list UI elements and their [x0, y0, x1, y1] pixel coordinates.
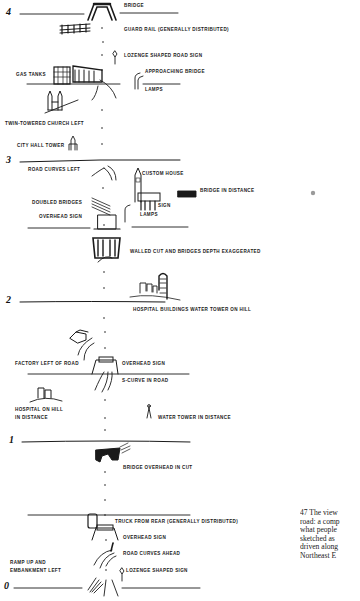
label-overhead-sign-3: OVERHEAD SIGN: [39, 214, 82, 220]
label-lamps-top: LAMPS: [145, 87, 163, 93]
label-gas-tanks: GAS TANKS: [16, 72, 46, 78]
label-doubled-bridges: DOUBLED BRIDGES: [32, 200, 82, 206]
mile-marker-3: 3: [6, 154, 11, 165]
label-road-curves-left: ROAD CURVES LEFT: [28, 167, 80, 173]
caption-line: Northeast E: [300, 552, 360, 561]
label-bridge-overhead-cut: BRIDGE OVERHEAD IN CUT: [123, 465, 192, 471]
label-walled-cut: WALLED CUT AND BRIDGES DEPTH EXAGGERATED: [130, 249, 261, 255]
label-road-curves-ahead: ROAD CURVES AHEAD: [123, 551, 180, 557]
guard-rail-icon: [60, 24, 90, 34]
label-bridge: BRIDGE: [124, 3, 144, 9]
label-s-curve: S-CURVE IN ROAD: [122, 378, 169, 384]
label-approaching-bridge: APPROACHING BRIDGE: [145, 69, 205, 75]
label-hospital-buildings: HOSPITAL BUILDINGS WATER TOWER ON HILL: [133, 307, 251, 313]
mile-marker-1: 1: [9, 434, 14, 445]
label-factory-left: FACTORY LEFT OF ROAD: [15, 361, 79, 367]
label-city-hall-tower: CITY HALL TOWER: [17, 143, 64, 149]
book-page: 4 3 2 1 0 BRIDGE GUARD RAIL (GENERALLY D…: [0, 0, 360, 601]
label-embankment-left: EMBANKMENT LEFT: [10, 568, 61, 574]
label-hospital-in-distance: IN DISTANCE: [15, 415, 48, 421]
label-custom-house: CUSTOM HOUSE: [142, 171, 184, 177]
label-hospital-on-hill: HOSPITAL ON HILL: [15, 407, 63, 413]
label-overhead-sign-2: OVERHEAD SIGN: [122, 361, 165, 367]
label-sign: SIGN: [158, 203, 171, 209]
label-guard-rail: GUARD RAIL (GENERALLY DISTRIBUTED): [124, 27, 229, 33]
figure-caption: 47 The view road: a comp what people ske…: [300, 509, 360, 561]
label-ramp-up: RAMP UP AND: [10, 560, 46, 566]
label-truck-from-rear: TRUCK FROM REAR (GENERALLY DISTRIBUTED): [115, 519, 238, 525]
label-lamps-3: LAMPS: [140, 212, 158, 218]
mile-marker-0: 0: [4, 580, 9, 591]
mile-marker-2: 2: [6, 294, 11, 305]
mile-marker-4: 4: [6, 6, 11, 17]
label-water-tower-distance: WATER TOWER IN DISTANCE: [158, 415, 231, 421]
label-lozenge-sign: LOZENGE SHAPED SIGN: [126, 568, 188, 574]
road-dots: [101, 27, 107, 571]
label-bridge-in-distance: BRIDGE IN DISTANCE: [200, 188, 254, 194]
label-lozenge-road-sign: LOZENGE SHAPED ROAD SIGN: [124, 53, 202, 59]
label-overhead-sign-0: OVERHEAD SIGN: [123, 535, 166, 541]
label-twin-towered-church: TWIN-TOWERED CHURCH LEFT: [5, 121, 84, 127]
